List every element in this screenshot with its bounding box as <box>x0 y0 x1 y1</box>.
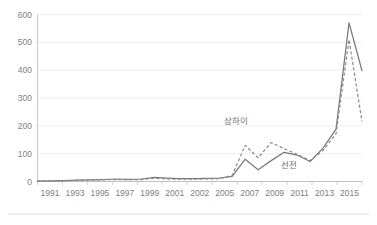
y-tick-label: 400 <box>18 65 32 75</box>
x-tick-label: 1999 <box>140 188 159 198</box>
y-tick-label: 300 <box>18 93 32 103</box>
x-tick-label: 2007 <box>240 188 259 198</box>
chart-canvas: 0100200300400500600 19911993199519971999… <box>0 0 377 225</box>
x-tick-label: 1995 <box>90 188 109 198</box>
y-tick-label: 200 <box>18 121 32 131</box>
x-tick-label: 1991 <box>41 188 60 198</box>
x-tick-label: 2005 <box>215 188 234 198</box>
y-tick-label: 500 <box>18 37 32 47</box>
y-tick-label: 100 <box>18 149 32 159</box>
series-annotation-label: 상하이 <box>224 116 248 126</box>
y-tick-label: 600 <box>18 10 32 20</box>
x-tick-label: 1993 <box>65 188 84 198</box>
y-tick-label: 0 <box>27 177 32 187</box>
x-tick-label: 1997 <box>115 188 134 198</box>
x-tick-label: 2002 <box>190 188 209 198</box>
x-tick-label: 2009 <box>265 188 284 198</box>
x-tick-label: 2001 <box>165 188 184 198</box>
series-annotation-label: 선전 <box>281 160 297 170</box>
x-tick-label: 2013 <box>315 188 334 198</box>
x-tick-label: 2011 <box>290 188 309 198</box>
line-chart-figure: 0100200300400500600 19911993199519971999… <box>0 0 377 225</box>
x-tick-label: 2015 <box>340 188 359 198</box>
